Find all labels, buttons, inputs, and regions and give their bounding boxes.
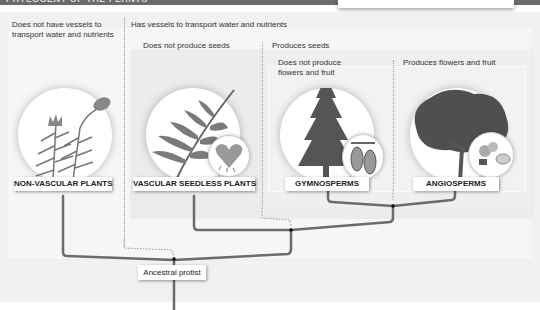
phylogeny-branches [0, 0, 540, 310]
label-gymnosperms: GYMNOSPERMS [285, 177, 369, 191]
label-ancestral-protist: Ancestral protist [138, 265, 206, 280]
label-angiosperms: ANGIOSPERMS [413, 177, 499, 191]
label-non-vascular-plants: NON-VASCULAR PLANTS [14, 177, 112, 191]
label-vascular-seedless-plants: VASCULAR SEEDLESS PLANTS [133, 177, 255, 191]
